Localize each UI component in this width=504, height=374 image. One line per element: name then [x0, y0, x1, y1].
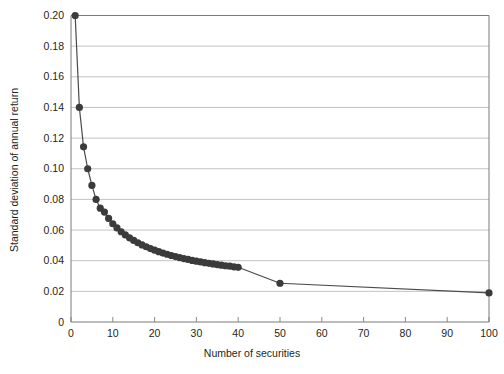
- data-point: [72, 12, 79, 19]
- data-point: [235, 264, 242, 271]
- y-axis-title: Standard deviation of annual return: [8, 88, 20, 252]
- chart-background: [0, 0, 504, 374]
- diversification-chart: 00.020.040.060.080.100.120.140.160.180.2…: [0, 0, 504, 374]
- y-tick-label: 0.18: [44, 40, 65, 52]
- x-tick-label: 80: [400, 327, 412, 339]
- data-point: [92, 196, 99, 203]
- data-point: [485, 289, 492, 296]
- y-tick-label: 0: [58, 316, 64, 328]
- x-tick-label: 100: [480, 327, 498, 339]
- x-tick-label: 40: [232, 327, 244, 339]
- x-tick-label: 70: [358, 327, 370, 339]
- x-tick-label: 90: [441, 327, 453, 339]
- data-point: [101, 209, 108, 216]
- y-tick-label: 0.20: [44, 9, 65, 21]
- x-tick-label: 50: [274, 327, 286, 339]
- data-point: [88, 182, 95, 189]
- x-tick-label: 60: [316, 327, 328, 339]
- y-tick-label: 0.06: [44, 224, 65, 236]
- y-tick-label: 0.10: [44, 162, 65, 174]
- data-point: [76, 104, 83, 111]
- y-tick-label: 0.16: [44, 70, 65, 82]
- y-tick-label: 0.08: [44, 193, 65, 205]
- x-tick-label: 20: [149, 327, 161, 339]
- chart-canvas: 00.020.040.060.080.100.120.140.160.180.2…: [0, 0, 504, 374]
- y-tick-label: 0.04: [44, 254, 65, 266]
- data-point: [276, 280, 283, 287]
- data-point: [84, 165, 91, 172]
- x-tick-label: 10: [107, 327, 119, 339]
- y-tick-label: 0.02: [44, 285, 65, 297]
- data-point: [80, 143, 87, 150]
- x-tick-label: 30: [191, 327, 203, 339]
- y-tick-label: 0.12: [44, 132, 65, 144]
- y-tick-label: 0.14: [44, 101, 65, 113]
- x-tick-label: 0: [68, 327, 74, 339]
- x-axis-title: Number of securities: [204, 347, 300, 359]
